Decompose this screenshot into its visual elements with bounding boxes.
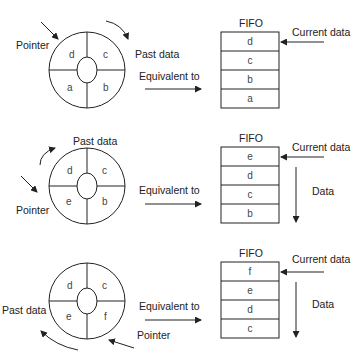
fifo-title: FIFO <box>239 247 263 259</box>
equivalent-label: Equivalent to <box>139 184 200 196</box>
current-data-label: Current data <box>292 253 351 265</box>
ring-cell: c <box>102 165 107 176</box>
fifo-cell: b <box>247 74 253 85</box>
ring-cell: c <box>103 49 108 60</box>
ring-cell: b <box>102 196 108 207</box>
ring-cell: b <box>103 82 109 93</box>
pointer-arrow-icon <box>41 22 58 39</box>
panel-2: d c e b Past data Pointer Equivalent to … <box>16 132 351 224</box>
fifo-cell: a <box>247 93 253 104</box>
ring-buffer-2: d c e b <box>49 148 125 224</box>
fifo-cell: e <box>247 285 253 296</box>
ring-cell: f <box>104 311 107 322</box>
current-data-label: Current data <box>292 26 351 38</box>
rotation-arrow-icon <box>106 21 128 39</box>
past-data-label: Past data <box>73 135 118 147</box>
ring-cell: a <box>67 82 73 93</box>
fifo-2: FIFO e d c b <box>221 132 279 223</box>
fifo-cell: f <box>249 266 252 277</box>
fifo-cell: e <box>247 151 253 162</box>
fifo-title: FIFO <box>239 132 263 144</box>
data-label: Data <box>312 185 334 197</box>
fifo-cell: c <box>248 55 253 66</box>
ring-buffer-1: d c a b <box>49 32 125 108</box>
panel-1: d c a b Pointer Past data Equivalent to … <box>16 17 351 108</box>
rotation-arrow-icon <box>41 331 78 350</box>
equivalent-label: Equivalent to <box>139 300 200 312</box>
fifo-3: FIFO f e d c <box>221 247 279 338</box>
pointer-label: Pointer <box>137 329 171 341</box>
fifo-cell: d <box>247 170 253 181</box>
equivalent-label: Equivalent to <box>139 70 200 82</box>
current-data-label: Current data <box>292 141 351 153</box>
pointer-label: Pointer <box>16 39 50 51</box>
data-label: Data <box>312 298 334 310</box>
fifo-cell: b <box>247 208 253 219</box>
pointer-arrow-icon <box>21 176 37 192</box>
ring-buffer-fifo-diagram: d c a b Pointer Past data Equivalent to … <box>0 0 357 359</box>
fifo-title: FIFO <box>239 17 263 29</box>
ring-cell: d <box>67 165 73 176</box>
past-data-label: Past data <box>2 304 47 316</box>
ring-cell: e <box>66 311 72 322</box>
fifo-cell: d <box>247 36 253 47</box>
fifo-cell: d <box>247 304 253 315</box>
fifo-1: FIFO d c b a <box>221 17 279 108</box>
pointer-label: Pointer <box>16 204 50 216</box>
ring-buffer-3: d c e f <box>49 263 125 339</box>
panel-3: d c e f Past data Pointer Equivalent to … <box>2 247 351 350</box>
ring-cell: d <box>67 280 73 291</box>
fifo-cell: c <box>248 323 253 334</box>
ring-cell: d <box>69 49 75 60</box>
pointer-arrow-icon <box>109 340 134 348</box>
fifo-cell: c <box>248 189 253 200</box>
ring-cell: c <box>102 280 107 291</box>
past-data-label: Past data <box>135 48 180 60</box>
rotation-arrow-icon <box>40 148 55 165</box>
ring-cell: e <box>66 196 72 207</box>
